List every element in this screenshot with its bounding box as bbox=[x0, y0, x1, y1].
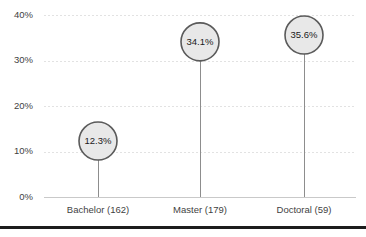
y-axis-tick-label: 20% bbox=[14, 100, 34, 111]
y-axis-tick-label: 10% bbox=[14, 145, 34, 156]
data-point-value-label: 35.6% bbox=[291, 29, 318, 40]
chart-container: 0%10%20%30%40%12.3%Bachelor (162)34.1%Ma… bbox=[0, 0, 366, 237]
x-axis-category-label: Bachelor (162) bbox=[67, 204, 129, 215]
x-axis-category-label: Master (179) bbox=[173, 204, 227, 215]
bottom-rule bbox=[0, 226, 366, 229]
y-axis-tick-label: 40% bbox=[14, 9, 34, 20]
x-axis-category-label: Doctoral (59) bbox=[277, 204, 332, 215]
data-point-value-label: 12.3% bbox=[85, 135, 112, 146]
data-point-value-label: 34.1% bbox=[187, 36, 214, 47]
lollipop-chart: 0%10%20%30%40%12.3%Bachelor (162)34.1%Ma… bbox=[0, 0, 366, 237]
y-axis-tick-label: 0% bbox=[19, 191, 33, 202]
y-axis-tick-label: 30% bbox=[14, 54, 34, 65]
plot-area: 0%10%20%30%40%12.3%Bachelor (162)34.1%Ma… bbox=[0, 0, 366, 237]
